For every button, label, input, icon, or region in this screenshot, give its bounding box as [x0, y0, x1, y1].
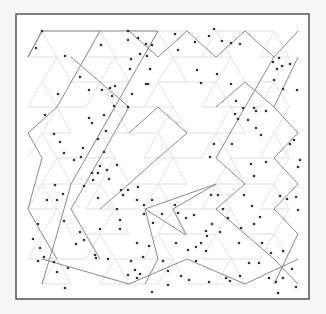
scatter-dot [297, 166, 300, 169]
scatter-dot [238, 242, 241, 245]
scatter-dot [253, 223, 256, 226]
scatter-dot [137, 186, 140, 189]
scatter-dot [275, 281, 278, 284]
scatter-dot [265, 161, 268, 164]
scatter-dot [114, 85, 117, 88]
scatter-dot [177, 49, 180, 52]
scatter-dot [239, 275, 242, 278]
scatter-dot [258, 262, 261, 265]
scatter-dot [39, 247, 42, 250]
scatter-dot [282, 250, 285, 253]
scatter-dot [151, 44, 154, 47]
scatter-dot [221, 40, 224, 43]
scatter-dot [91, 172, 94, 175]
scatter-dot [99, 228, 102, 231]
scatter-dot [94, 254, 97, 257]
scatter-dot [116, 164, 119, 167]
scatter-dot [44, 114, 47, 117]
scatter-dot [37, 260, 40, 263]
scatter-dot [239, 43, 242, 46]
scatter-dot [83, 239, 86, 242]
scatter-dot [145, 43, 148, 46]
scatter-dot [130, 260, 133, 263]
scatter-dot [268, 277, 271, 280]
scatter-dot [127, 274, 130, 277]
scatter-dot [41, 30, 44, 33]
scatter-dot [97, 172, 100, 175]
scatter-dot [210, 194, 213, 197]
lattice-diagram [0, 0, 326, 314]
scatter-dot [279, 195, 282, 198]
scatter-dot [88, 117, 91, 120]
scatter-dot [255, 110, 258, 113]
scatter-dot [231, 143, 234, 146]
scatter-dot [243, 194, 246, 197]
scatter-dot [230, 83, 233, 86]
scatter-dot [148, 245, 151, 248]
scatter-dot [255, 127, 258, 130]
scatter-dot [83, 185, 86, 188]
scatter-dot [122, 194, 125, 197]
scatter-dot [242, 107, 245, 110]
scatter-dot [161, 213, 164, 216]
scatter-dot [206, 235, 209, 238]
scatter-dot [63, 220, 66, 223]
scatter-dot [293, 139, 296, 142]
scatter-dot [235, 100, 238, 103]
scatter-dot [259, 216, 262, 219]
scatter-dot [35, 47, 38, 50]
scatter-dot [80, 156, 83, 159]
scatter-dot [107, 258, 110, 261]
scatter-dot [62, 193, 65, 196]
scatter-dot [139, 53, 142, 56]
scatter-dot [139, 273, 142, 276]
scatter-dot [248, 262, 251, 265]
scatter-dot [57, 93, 60, 96]
scatter-dot [253, 175, 256, 178]
scatter-dot [209, 156, 212, 159]
scatter-dot [127, 106, 130, 109]
scatter-dot [53, 261, 56, 264]
scatter-dot [278, 57, 281, 60]
scatter-dot [289, 143, 292, 146]
scatter-dot [64, 55, 67, 58]
scatter-dot [54, 184, 57, 187]
scatter-dot [152, 222, 155, 225]
scatter-dot [208, 35, 211, 38]
scatter-dot [174, 33, 177, 36]
scatter-dot [213, 28, 216, 31]
scatter-dot [227, 217, 230, 220]
scatter-dot [134, 269, 137, 272]
scatter-dot [297, 209, 300, 212]
scatter-dot [151, 199, 154, 202]
scatter-dot [79, 76, 82, 79]
scatter-dot [59, 141, 62, 144]
scatter-dot [162, 260, 165, 263]
scatter-dot [120, 189, 123, 192]
scatter-dot [67, 267, 70, 270]
diagram-canvas [0, 0, 326, 314]
scatter-dot [175, 242, 178, 245]
scatter-dot [136, 242, 139, 245]
scatter-dot [106, 169, 109, 172]
scatter-dot [56, 271, 59, 274]
scatter-dot [237, 118, 240, 121]
scatter-dot [272, 61, 275, 64]
scatter-dot [196, 69, 199, 72]
scatter-dot [174, 204, 177, 207]
scatter-dot [53, 133, 56, 136]
scatter-dot [270, 252, 273, 255]
scatter-dot [295, 196, 298, 199]
scatter-dot [146, 55, 149, 58]
scatter-dot [180, 275, 183, 278]
scatter-dot [64, 287, 67, 290]
scatter-dot [149, 68, 152, 71]
scatter-dot [188, 279, 191, 282]
scatter-dot [282, 88, 285, 91]
scatter-dot [100, 44, 103, 47]
scatter-dot [222, 208, 225, 211]
scatter-dot [113, 105, 116, 108]
scatter-dot [289, 63, 292, 66]
scatter-dot [119, 219, 122, 222]
scatter-dot [63, 152, 66, 155]
